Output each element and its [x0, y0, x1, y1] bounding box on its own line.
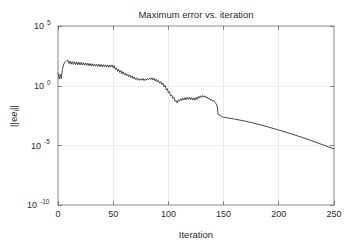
plot-background: [58, 26, 334, 205]
ytick-label-1e0-sup: 0: [47, 79, 51, 86]
y-axis-label: ||eei||: [8, 105, 20, 127]
y-axis-label-group: ||eei||: [8, 105, 20, 127]
ytick-label-1e5-base: 10: [34, 21, 44, 31]
ytick-label-1e-5-base: 10: [31, 141, 41, 151]
y-axis-label-base: ||e: [8, 117, 19, 127]
ytick-label-1e5-sup: 5: [47, 19, 51, 26]
xtick-label-250: 250: [326, 209, 341, 219]
chart-canvas: Maximum error vs. iteration 10 5 10 0 10…: [0, 0, 353, 251]
xtick-label-150: 150: [216, 209, 231, 219]
y-axis-label-tail: ||: [8, 105, 19, 110]
y-axis-tick-labels: 10 5 10 0 10 -5 10 -10: [27, 19, 51, 211]
ytick-label-1e-10-sup: -10: [40, 198, 50, 205]
x-axis-label: Iteration: [179, 229, 213, 240]
chart-figure: Maximum error vs. iteration 10 5 10 0 10…: [0, 0, 353, 251]
xtick-label-200: 200: [271, 209, 286, 219]
xtick-label-0: 0: [55, 209, 60, 219]
xtick-label-50: 50: [108, 209, 118, 219]
chart-title: Maximum error vs. iteration: [138, 9, 253, 20]
ytick-label-1e0-base: 10: [34, 81, 44, 91]
ytick-label-1e-5-sup: -5: [44, 138, 50, 145]
ytick-label-1e-10-base: 10: [27, 200, 37, 210]
x-axis-tick-labels: 0 50 100 150 200 250: [55, 209, 341, 219]
xtick-label-100: 100: [161, 209, 176, 219]
